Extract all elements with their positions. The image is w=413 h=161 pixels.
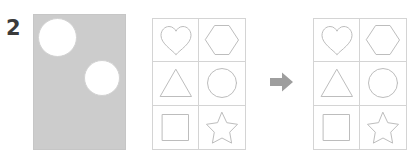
hole-circle-middle-right (84, 60, 120, 96)
stimulus-panel (33, 14, 126, 150)
grid-cell-star[interactable] (199, 106, 245, 149)
hexagon-icon (365, 24, 401, 56)
grid-cell-circle[interactable] (360, 62, 406, 105)
square-icon (161, 113, 190, 142)
grid-cell-star[interactable] (360, 106, 406, 149)
hexagon-icon (204, 24, 240, 56)
result-grid (313, 18, 407, 150)
circle-icon (206, 67, 238, 99)
heart-icon (320, 25, 354, 56)
puzzle-canvas: 2 (0, 0, 413, 161)
grid-cell-triangle[interactable] (153, 62, 199, 105)
star-icon (205, 111, 239, 144)
star-icon (366, 111, 400, 144)
circle-icon (367, 67, 399, 99)
grid-cell-heart[interactable] (314, 19, 360, 62)
grid-cell-hexagon[interactable] (360, 19, 406, 62)
grid-cell-square[interactable] (153, 106, 199, 149)
triangle-icon (159, 68, 193, 98)
right-arrow-icon (269, 71, 294, 93)
grid-cell-square[interactable] (314, 106, 360, 149)
triangle-icon (320, 68, 354, 98)
source-grid (152, 18, 246, 150)
grid-cell-heart[interactable] (153, 19, 199, 62)
grid-cell-triangle[interactable] (314, 62, 360, 105)
grid-cell-hexagon[interactable] (199, 19, 245, 62)
problem-number: 2 (6, 18, 21, 39)
grid-cell-circle[interactable] (199, 62, 245, 105)
heart-icon (159, 25, 193, 56)
hole-circle-top-left (38, 18, 77, 57)
square-icon (322, 113, 351, 142)
